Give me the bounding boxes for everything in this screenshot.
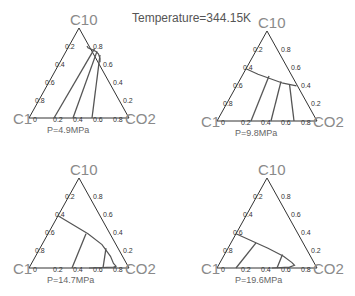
pressure-label: P=4.9MPa	[47, 125, 89, 135]
vertex-label-top: C10	[70, 161, 98, 178]
tie-line	[54, 49, 95, 118]
right-tick-label: 0.4	[301, 229, 311, 236]
tie-line	[251, 76, 269, 121]
tie-line	[92, 55, 100, 118]
pressure-label: P=19.6MPa	[235, 275, 282, 285]
base-tick-label: 0	[33, 266, 37, 273]
vertex-label-right: CO2	[125, 260, 156, 277]
right-tick-label: 0.8	[281, 193, 291, 200]
binodal-curve	[58, 216, 116, 268]
binodal-curve	[236, 234, 295, 268]
base-tick-label: 0	[221, 266, 225, 273]
base-tick-label: 0.6	[93, 116, 103, 123]
left-tick-label: 0.4	[243, 211, 253, 218]
right-tick-label: 0.6	[103, 211, 113, 218]
left-tick-label: 0.4	[55, 61, 65, 68]
triangle-frame	[217, 178, 317, 268]
left-tick-label: 0.2	[65, 43, 75, 50]
ternary-panel: C10C1CO200.20.40.60.80.20.40.60.80.80.60…	[13, 161, 156, 285]
right-tick-label: 0.2	[123, 97, 133, 104]
vertex-label-left: C1	[13, 110, 32, 127]
base-tick-label: 0.2	[241, 119, 251, 126]
right-tick-label: 0.6	[291, 64, 301, 71]
vertex-label-right: CO2	[313, 260, 344, 277]
base-tick-label: 0	[221, 119, 225, 126]
left-tick-label: 0.2	[253, 193, 263, 200]
ternary-panel: C10C1CO200.20.40.60.80.20.40.60.80.80.60…	[13, 11, 156, 135]
left-tick-label: 0.6	[233, 82, 243, 89]
vertex-label-right: CO2	[125, 110, 156, 127]
tie-line	[236, 243, 256, 268]
ternary-panel: C10C1CO200.20.40.60.80.20.40.60.80.80.60…	[201, 161, 344, 285]
tie-line	[290, 84, 295, 121]
right-tick-label: 0.4	[113, 79, 123, 86]
tie-line	[72, 234, 86, 268]
base-tick-label: 0.2	[241, 266, 251, 273]
left-tick-label: 0.2	[253, 46, 263, 53]
left-tick-label: 0.8	[35, 97, 45, 104]
right-tick-label: 0.6	[291, 211, 301, 218]
base-tick-label: 0	[33, 116, 37, 123]
base-tick-label: 0.8	[301, 119, 311, 126]
vertex-label-left: C1	[13, 260, 32, 277]
pressure-label: P=14.7MPa	[47, 275, 94, 285]
vertex-label-right: CO2	[313, 113, 344, 130]
left-tick-label: 0.8	[35, 247, 45, 254]
right-tick-label: 0.6	[103, 61, 113, 68]
right-tick-label: 0.2	[311, 247, 321, 254]
ternary-panel: C10C1CO200.20.40.60.80.20.40.60.80.80.60…	[201, 14, 344, 138]
right-tick-label: 0.2	[311, 100, 321, 107]
pressure-label: P=9.8MPa	[235, 128, 277, 138]
base-tick-label: 0.6	[281, 119, 291, 126]
base-tick-label: 0.8	[301, 266, 311, 273]
tie-line	[271, 81, 281, 121]
base-tick-label: 0.2	[53, 266, 63, 273]
left-tick-label: 0.2	[65, 193, 75, 200]
vertex-label-left: C1	[201, 260, 220, 277]
base-tick-label: 0.8	[113, 116, 123, 123]
triangle-frame	[29, 28, 129, 118]
vertex-label-top: C10	[258, 14, 286, 31]
vertex-label-top: C10	[258, 161, 286, 178]
left-tick-label: 0.6	[45, 229, 55, 236]
base-tick-label: 0.4	[261, 266, 271, 273]
vertex-label-top: C10	[70, 11, 98, 28]
triangle-frame	[217, 31, 317, 121]
right-tick-label: 0.8	[93, 193, 103, 200]
base-tick-label: 0.4	[261, 119, 271, 126]
ternary-figure: C10C1CO200.20.40.60.80.20.40.60.80.80.60…	[0, 0, 355, 296]
right-tick-label: 0.8	[281, 46, 291, 53]
left-tick-label: 0.8	[223, 247, 233, 254]
right-tick-label: 0.2	[123, 247, 133, 254]
left-tick-label: 0.6	[45, 79, 55, 86]
right-tick-label: 0.4	[301, 82, 311, 89]
base-tick-label: 0.4	[73, 116, 83, 123]
base-tick-label: 0.4	[73, 266, 83, 273]
left-tick-label: 0.8	[223, 100, 233, 107]
triangle-frame	[29, 178, 129, 268]
tie-line	[103, 248, 106, 268]
vertex-label-left: C1	[201, 113, 220, 130]
right-tick-label: 0.4	[113, 229, 123, 236]
